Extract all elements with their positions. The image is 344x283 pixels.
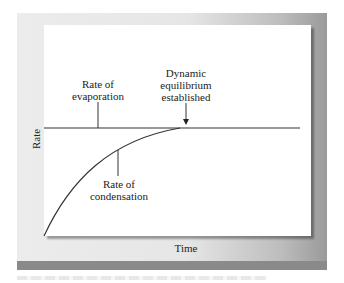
- equilibrium-label-line3: established: [152, 91, 220, 103]
- equilibrium-label-line2: equilibrium: [152, 79, 220, 91]
- x-axis-label: Time: [170, 242, 202, 254]
- caption-remnant: [17, 276, 267, 280]
- condensation-label-line1: Rate of: [84, 178, 154, 190]
- evaporation-label-line1: Rate of: [68, 78, 128, 90]
- evaporation-label-line2: evaporation: [68, 90, 128, 102]
- condensation-label: Rate of condensation: [84, 178, 154, 202]
- equilibrium-arrow-head: [183, 119, 189, 125]
- equilibrium-label-line1: Dynamic: [152, 67, 220, 79]
- y-axis-label: Rate: [30, 127, 42, 151]
- chart-lines: [0, 0, 344, 283]
- equilibrium-label: Dynamic equilibrium established: [152, 67, 220, 103]
- condensation-label-line2: condensation: [84, 190, 154, 202]
- evaporation-label: Rate of evaporation: [68, 78, 128, 102]
